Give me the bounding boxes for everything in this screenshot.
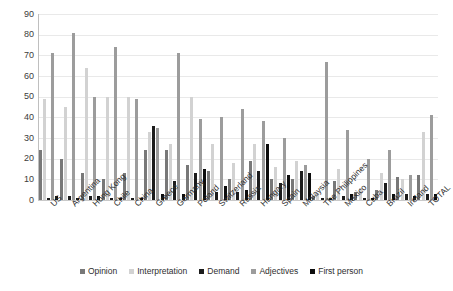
y-tick-label: 80	[4, 30, 34, 39]
bar	[156, 128, 159, 200]
legend-item: Adjectives	[251, 266, 298, 276]
y-tick-label: 10	[4, 175, 34, 184]
y-tick-label: 20	[4, 154, 34, 163]
legend-swatch-icon	[310, 269, 315, 274]
bar-group	[270, 14, 291, 200]
y-tick-label: 70	[4, 51, 34, 60]
bar-group	[375, 14, 396, 200]
y-tick-label: 50	[4, 92, 34, 101]
bar	[135, 99, 138, 200]
bar	[177, 53, 180, 200]
legend-item: Opinion	[80, 266, 117, 276]
legend-swatch-icon	[251, 269, 256, 274]
legend-label: Interpretation	[137, 266, 187, 276]
y-tick-label: 40	[4, 113, 34, 122]
bar	[39, 150, 42, 200]
bar-group	[59, 14, 80, 200]
y-tick-label: 0	[4, 196, 34, 205]
bar	[283, 138, 286, 200]
legend-label: Demand	[207, 266, 239, 276]
bar	[430, 115, 433, 200]
bar	[127, 97, 130, 200]
bar-group	[80, 14, 101, 200]
bar-group	[143, 14, 164, 200]
legend-swatch-icon	[199, 269, 204, 274]
chart-legend: OpinionInterpretationDemandAdjectivesFir…	[0, 266, 443, 276]
plot-area	[38, 14, 438, 200]
bar-group	[206, 14, 227, 200]
y-tick-label: 60	[4, 72, 34, 81]
bar-group	[312, 14, 333, 200]
bar	[60, 159, 63, 200]
legend-label: Opinion	[88, 266, 117, 276]
legend-label: Adjectives	[259, 266, 298, 276]
y-tick-label: 90	[4, 10, 34, 19]
bar	[51, 53, 54, 200]
legend-item: First person	[310, 266, 363, 276]
legend-swatch-icon	[80, 269, 85, 274]
legend-item: Interpretation	[129, 266, 187, 276]
y-axis: 0102030405060708090	[0, 0, 34, 210]
bar	[85, 68, 88, 200]
bar	[388, 150, 391, 200]
bar-group	[248, 14, 269, 200]
bar-group	[291, 14, 312, 200]
legend-swatch-icon	[129, 269, 134, 274]
y-tick-label: 30	[4, 134, 34, 143]
bar	[43, 99, 46, 200]
bar-group	[396, 14, 417, 200]
bar-group	[38, 14, 59, 200]
bar-group	[164, 14, 185, 200]
x-axis-labels: USArgentinaHong KongChileChinaGreeceGerm…	[38, 202, 438, 254]
bar-groups	[38, 14, 438, 200]
bar	[152, 126, 155, 200]
bar-group	[185, 14, 206, 200]
bar	[64, 107, 67, 200]
bar	[300, 171, 303, 200]
bar	[262, 121, 265, 200]
legend-label: First person	[318, 266, 363, 276]
bar	[72, 33, 75, 200]
bar-group	[417, 14, 438, 200]
legend-item: Demand	[199, 266, 239, 276]
bar-group	[122, 14, 143, 200]
